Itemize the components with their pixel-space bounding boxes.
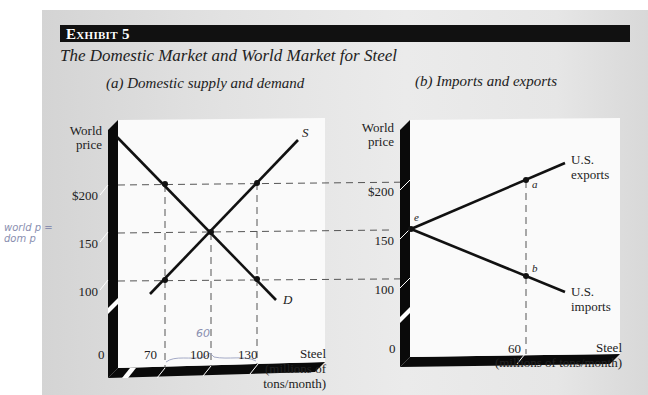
- panel-b-ytick-200: $200: [358, 184, 394, 200]
- point-a-label: a: [532, 178, 538, 190]
- panel-a-ytick-200: $200: [62, 188, 98, 204]
- panel-a-ytick-100: 100: [62, 284, 98, 300]
- panel-a-xlabel: Steel (millions of tons/month): [200, 346, 326, 391]
- imports-label: U.S. imports: [571, 284, 611, 314]
- panel-a-xtick-0: 0: [98, 347, 105, 363]
- demand-label: D: [283, 292, 292, 308]
- panel-a-ytick-150: 150: [62, 236, 98, 252]
- panel-b-ytick-150: 150: [358, 233, 394, 249]
- point-b-label: b: [532, 262, 538, 274]
- panel-b-xlabel: Steel (millions of tons/month): [490, 340, 622, 370]
- panel-b-ylabel: World price: [354, 121, 394, 149]
- panel-a-ylabel: World price: [62, 124, 102, 152]
- bracket-handwritten-note: 60: [196, 328, 210, 339]
- panel-a-xtick-70: 70: [144, 347, 157, 363]
- margin-handwritten-note: world p = dom p: [4, 222, 53, 244]
- panel-b-xtick-0: 0: [389, 341, 396, 357]
- panel-b-ytick-100: 100: [358, 282, 394, 298]
- panel-b-left-wall: [400, 120, 410, 367]
- point-e-label: e: [414, 211, 419, 223]
- exports-label: U.S. exports: [571, 152, 609, 182]
- supply-label: S: [302, 125, 309, 141]
- panel-a-left-wall: [108, 120, 118, 378]
